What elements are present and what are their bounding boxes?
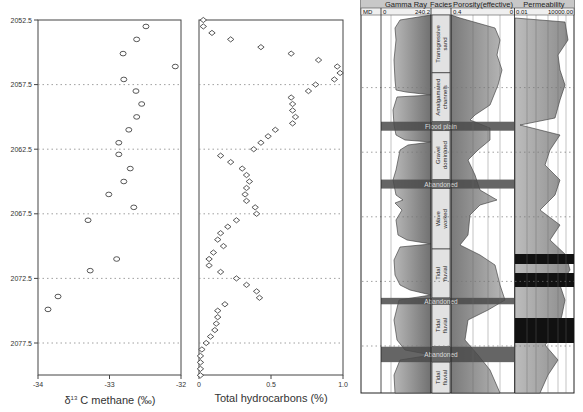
data-point-circle — [133, 89, 139, 94]
data-point-diamond — [199, 347, 205, 352]
data-point-circle — [116, 140, 122, 145]
perm-dark-band-3 — [515, 318, 574, 343]
facies-label: Abandoned — [424, 351, 458, 358]
subheader-md: MD — [363, 9, 373, 15]
data-point-circle — [121, 179, 127, 184]
depth-tick-label: 2052.5 — [11, 17, 33, 24]
facies-label: Flood plain — [425, 123, 457, 131]
data-point-diamond — [258, 140, 264, 145]
perm-dark-band-1 — [515, 254, 574, 264]
data-point-diamond — [217, 153, 223, 158]
plot1-x-ticks: -34-33-32 — [33, 375, 186, 388]
well-log-panel: Gamma Ray Facies Porosity(effective) Per… — [361, 0, 574, 393]
data-point-diamond — [203, 340, 209, 345]
data-point-diamond — [200, 17, 206, 22]
data-point-diamond — [289, 121, 295, 126]
header-permeability: Permeability — [523, 0, 565, 9]
data-point-diamond — [334, 64, 340, 69]
plot2-diamond-markers — [197, 17, 343, 378]
data-point-circle — [121, 77, 127, 82]
data-point-diamond — [305, 88, 311, 93]
subheader-perm-min: 0.01 — [516, 9, 528, 15]
facies-label: Tidalfluvial — [435, 266, 448, 281]
plot2-x-ticks: 00.51.0 — [197, 375, 348, 388]
perm-dark-band-2 — [515, 273, 574, 287]
data-point-diamond — [289, 108, 295, 113]
data-point-diamond — [265, 134, 271, 139]
plot2-gridlines — [199, 85, 343, 343]
data-point-diamond — [207, 334, 213, 339]
facies-label: Tidalfluvial — [435, 370, 448, 385]
data-point-diamond — [222, 302, 228, 307]
data-point-diamond — [220, 244, 226, 249]
data-point-diamond — [243, 198, 249, 203]
data-point-diamond — [215, 308, 221, 313]
data-point-diamond — [233, 276, 239, 281]
data-point-diamond — [288, 95, 294, 100]
data-point-diamond — [242, 192, 248, 197]
data-point-diamond — [197, 353, 203, 358]
data-point-circle — [139, 102, 145, 107]
x-tick-label: -34 — [33, 381, 43, 388]
facies-label: Abandoned — [424, 298, 458, 305]
plot2-x-axis-label: Total hydrocarbons (%) — [214, 392, 327, 404]
x-tick-label: 1.0 — [338, 381, 348, 388]
data-point-diamond — [253, 289, 259, 294]
subheader-perm-max: 10000.00 — [548, 9, 574, 15]
data-point-diamond — [272, 127, 278, 132]
data-point-diamond — [225, 224, 231, 229]
data-point-diamond — [209, 30, 215, 35]
data-point-diamond — [215, 237, 221, 242]
data-point-diamond — [197, 366, 203, 371]
plot1-circle-markers — [45, 24, 178, 312]
data-point-diamond — [331, 77, 337, 82]
data-point-circle — [143, 24, 149, 29]
data-point-diamond — [256, 295, 262, 300]
data-point-diamond — [212, 327, 218, 332]
depth-tick-label: 2062.5 — [11, 146, 33, 153]
subheader-por-min: 0.4 — [453, 9, 462, 15]
data-point-circle — [55, 294, 61, 299]
data-point-diamond — [289, 101, 295, 106]
x-tick-label: 0.5 — [266, 381, 276, 388]
data-point-circle — [134, 115, 140, 120]
figure-canvas: 2052.52057.52062.52067.52072.52077.5 -34… — [0, 0, 583, 412]
data-point-circle — [172, 64, 178, 69]
data-point-diamond — [206, 263, 212, 268]
plot1-gridlines — [38, 85, 181, 343]
data-point-circle — [127, 166, 133, 171]
depth-tick-label: 2067.5 — [11, 210, 33, 217]
header-gamma-ray: Gamma Ray — [385, 0, 427, 9]
hydrocarbons-plot: 00.51.0 Total hydrocarbons (%) — [197, 17, 348, 404]
data-point-diamond — [258, 45, 264, 50]
x-tick-label: 0 — [197, 381, 201, 388]
data-point-diamond — [197, 373, 203, 378]
data-point-diamond — [210, 250, 216, 255]
header-facies: Facies — [430, 0, 452, 9]
gamma-ray-curve — [393, 15, 431, 393]
data-point-diamond — [243, 172, 249, 177]
data-point-circle — [114, 257, 120, 262]
data-point-diamond — [243, 185, 249, 190]
depth-tick-label: 2057.5 — [11, 81, 33, 88]
plot1-frame — [38, 20, 181, 375]
data-point-diamond — [251, 147, 257, 152]
data-point-diamond — [217, 269, 223, 274]
plot2-frame — [199, 20, 343, 375]
data-point-circle — [87, 268, 93, 273]
header-porosity: Porosity(effective) — [453, 0, 513, 9]
data-point-diamond — [200, 24, 206, 29]
depth-tick-label: 2077.5 — [11, 340, 33, 347]
data-point-circle — [134, 37, 140, 42]
data-point-diamond — [215, 315, 221, 320]
data-point-circle — [120, 51, 126, 56]
data-point-diamond — [197, 360, 203, 365]
log-subheader-bar — [361, 8, 574, 15]
depth-tick-label: 2072.5 — [11, 275, 33, 282]
depth-axis-ticks: 2052.52057.52062.52067.52072.52077.5 — [11, 17, 38, 347]
x-tick-label: -33 — [104, 381, 114, 388]
data-point-circle — [116, 152, 122, 157]
data-point-diamond — [217, 231, 223, 236]
data-point-circle — [45, 307, 51, 312]
subheader-gr-max: 240.2 — [415, 9, 431, 15]
